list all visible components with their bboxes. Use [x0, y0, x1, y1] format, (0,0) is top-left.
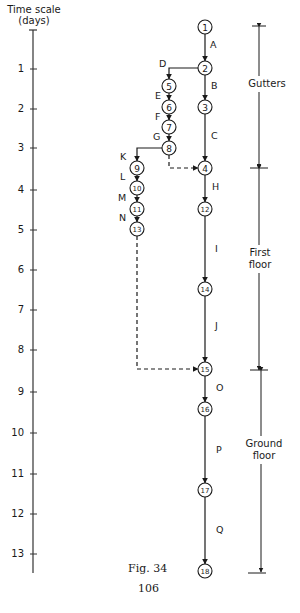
tick-label-4: 4 — [4, 184, 24, 195]
activity-h-label: H — [212, 181, 219, 192]
tick-label-8: 8 — [4, 344, 24, 355]
tick-label-1: 1 — [4, 63, 24, 74]
time-axis — [29, 30, 37, 573]
activity-m-label: M — [118, 192, 126, 203]
node-8-label: 8 — [166, 144, 172, 154]
activity-k-label: K — [120, 151, 126, 162]
phase-gutters-label: Gutters — [242, 76, 292, 92]
node-5-label: 5 — [166, 82, 172, 92]
activity-q-label: Q — [216, 524, 223, 535]
tick-label-7: 7 — [4, 304, 24, 315]
tick-label-6: 6 — [4, 264, 24, 275]
node-16-label: 16 — [201, 406, 210, 414]
node-7-label: 7 — [166, 123, 172, 133]
tick-label-3: 3 — [4, 142, 24, 153]
tick-label-13: 13 — [4, 548, 24, 559]
node-11-label: 11 — [133, 206, 142, 214]
phase-ground-floor-label: Ground floor — [240, 436, 288, 464]
page-number: 106 — [138, 582, 159, 595]
node-4-label: 4 — [202, 164, 208, 174]
tick-label-2: 2 — [4, 103, 24, 114]
node-17-label: 17 — [201, 487, 210, 495]
activity-c-label: C — [211, 130, 218, 141]
node-10-label: 10 — [133, 185, 142, 193]
node-15-label: 15 — [201, 366, 210, 374]
node-14-label: 14 — [201, 286, 210, 294]
phase-first-floor-line2: floor — [240, 259, 280, 271]
activity-n-label: N — [119, 212, 126, 223]
phase-first-floor-line1: First — [240, 247, 280, 259]
activity-a-label: A — [210, 39, 217, 50]
node-9-label: 9 — [134, 164, 140, 174]
tick-label-11: 11 — [4, 468, 24, 479]
node-2-label: 2 — [202, 64, 208, 74]
tick-label-10: 10 — [4, 427, 24, 438]
node-6-label: 6 — [166, 103, 172, 113]
activity-l-label: L — [120, 171, 125, 182]
activity-e-label: E — [155, 90, 161, 101]
activity-f-label: F — [155, 111, 160, 122]
activity-b-label: B — [211, 80, 218, 91]
tick-label-12: 12 — [4, 508, 24, 519]
node-1-label: 1 — [202, 23, 208, 33]
node-12-label: 12 — [201, 206, 210, 214]
tick-label-5: 5 — [4, 224, 24, 235]
activity-i-label: I — [215, 243, 218, 254]
phase-first-floor-label: First floor — [240, 245, 280, 273]
node-3-label: 3 — [202, 103, 208, 113]
activity-g-label: G — [153, 131, 160, 142]
activity-j-label: J — [215, 320, 218, 331]
phase-ground-floor-line1: Ground — [240, 438, 288, 450]
figure-caption: Fig. 34 — [128, 562, 167, 575]
phase-dimensions — [248, 26, 268, 573]
node-18-label: 18 — [201, 568, 210, 576]
phase-ground-floor-line2: floor — [240, 450, 288, 462]
tick-label-9: 9 — [4, 386, 24, 397]
node-13-label: 13 — [133, 226, 142, 234]
activity-o-label: O — [216, 382, 223, 393]
activity-p-label: P — [216, 444, 222, 455]
activity-d-label: D — [159, 58, 166, 69]
phase-gutters-text: Gutters — [248, 78, 285, 89]
